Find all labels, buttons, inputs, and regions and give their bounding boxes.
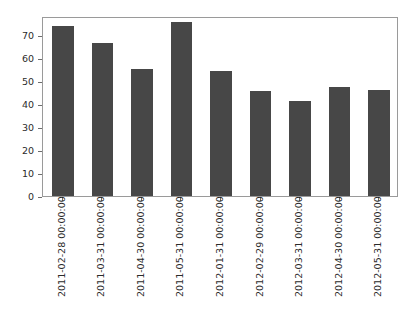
bar <box>131 69 153 196</box>
y-tick-label: 70 <box>8 31 34 41</box>
x-tick-label: 2011-04-30 00:00:00 <box>136 196 146 297</box>
x-tick-label: 2011-05-31 00:00:00 <box>175 196 185 297</box>
y-tick-label: 40 <box>8 100 34 110</box>
x-tick-label: 2011-03-31 00:00:00 <box>96 196 106 297</box>
bar <box>329 87 351 196</box>
bar-series <box>43 18 397 196</box>
y-tick-label: 0 <box>8 192 34 202</box>
bar <box>368 90 390 196</box>
bar-chart-figure: 010203040506070 2011-02-28 00:00:002011-… <box>0 0 416 315</box>
y-tick-label: 20 <box>8 146 34 156</box>
y-tick-mark <box>38 197 42 198</box>
x-tick-label: 2011-02-28 00:00:00 <box>57 196 67 297</box>
y-tick-label: 60 <box>8 54 34 64</box>
x-tick-label: 2012-05-31 00:00:00 <box>373 196 383 297</box>
bar <box>210 71 232 196</box>
x-tick-label: 2012-03-31 00:00:00 <box>294 196 304 297</box>
x-tick-label: 2012-04-30 00:00:00 <box>334 196 344 297</box>
x-tick-label: 2012-01-31 00:00:00 <box>215 196 225 297</box>
bar <box>92 43 114 196</box>
y-tick-label: 10 <box>8 169 34 179</box>
y-tick-label: 50 <box>8 77 34 87</box>
bar <box>171 22 193 196</box>
y-tick-label: 30 <box>8 123 34 133</box>
bar <box>52 26 74 196</box>
bar <box>250 91 272 196</box>
x-tick-label: 2012-02-29 00:00:00 <box>255 196 265 297</box>
bar <box>289 101 311 196</box>
plot-area <box>42 17 398 197</box>
